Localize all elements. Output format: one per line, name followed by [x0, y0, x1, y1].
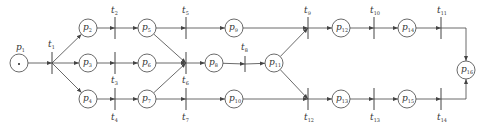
- place-label: p1: [16, 42, 25, 53]
- place-p3: p3: [79, 54, 97, 72]
- transition-label: t14: [437, 112, 447, 123]
- arc-t8-p11: [245, 63, 265, 64]
- arc-p8-t8: [223, 63, 245, 64]
- place-p2: p2: [79, 19, 97, 37]
- place-p15: p15: [398, 90, 416, 108]
- transition-label: t2: [111, 5, 118, 16]
- place-p9: p9: [225, 19, 243, 37]
- arc-p11-t12: [280, 70, 308, 99]
- place-p4: p4: [79, 90, 97, 108]
- transition-label: t10: [370, 5, 380, 16]
- transition-label: t11: [437, 5, 447, 16]
- place-p16: p16: [457, 61, 475, 79]
- place-p12: p12: [332, 19, 350, 37]
- place-p1: [10, 54, 28, 72]
- arc-p5-t6: [154, 34, 186, 63]
- transition-label: t1: [48, 39, 55, 50]
- transition-label: t7: [182, 112, 189, 123]
- arc-t14-p16: [441, 79, 466, 99]
- place-p13: p13: [332, 90, 350, 108]
- transition-label: t13: [370, 112, 380, 123]
- transition-label: t12: [304, 112, 314, 123]
- arc-t1-p4: [52, 63, 82, 93]
- places-layer: p2p3p4p5p6p7p8p9p10p11p12p13p14p15p16: [10, 19, 475, 108]
- transition-label: t8: [241, 42, 248, 53]
- place-p6: p6: [138, 54, 156, 72]
- transition-label: t6: [182, 75, 189, 86]
- place-p10: p10: [225, 90, 243, 108]
- place-p11: p11: [265, 54, 283, 72]
- arc-p11-t9: [280, 28, 308, 57]
- arc-t11-p16: [441, 28, 466, 61]
- token-icon: [18, 63, 20, 65]
- transition-label: t4: [111, 112, 118, 123]
- transitions-layer: [52, 17, 441, 110]
- place-p14: p14: [398, 19, 416, 37]
- transition-label: t3: [111, 75, 118, 86]
- place-p5: p5: [138, 19, 156, 37]
- petri-net-diagram: p2p3p4p5p6p7p8p9p10p11p12p13p14p15p16 p1…: [0, 0, 483, 131]
- arc-t1-p2: [52, 34, 82, 63]
- transition-label: t9: [304, 5, 311, 16]
- place-p8: p8: [205, 54, 223, 72]
- transition-label: t5: [182, 5, 189, 16]
- place-p7: p7: [138, 90, 156, 108]
